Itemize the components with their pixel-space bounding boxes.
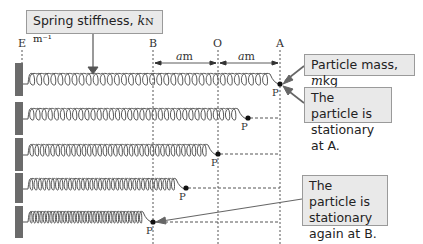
callout-stationary-b: The particle is stationary again at B.: [302, 175, 388, 226]
particle-label-5: P: [146, 225, 153, 236]
callout-text: Spring stiffness,: [33, 13, 137, 28]
label-e: E: [18, 37, 26, 50]
wall-block-2: [15, 102, 23, 135]
callout-line: The particle is: [311, 90, 385, 122]
particle-row-1: [277, 81, 282, 86]
springs-group: [23, 73, 280, 223]
callout-var: m: [311, 73, 323, 88]
arrow-particle-mass: [283, 66, 304, 84]
particle-row-4: [183, 185, 188, 190]
wall-block-1: [15, 63, 23, 96]
callout-spring-stiffness: Spring stiffness, kN m⁻¹: [26, 10, 163, 34]
callout-unit: kg: [323, 73, 338, 88]
spring-row-2: [23, 108, 248, 120]
particle-label-1: P: [272, 87, 279, 98]
wall-block-3: [15, 138, 23, 171]
callout-line: stationary at A.: [311, 122, 385, 154]
distance-unit: m: [183, 50, 193, 63]
distance-label-bo: am: [176, 50, 193, 63]
particle-label-3: P: [211, 157, 218, 168]
spring-row-4: [23, 178, 186, 190]
callout-var: k: [137, 13, 145, 28]
arrow-stationary-a: [283, 86, 304, 103]
label-a: A: [276, 37, 284, 50]
particle-label-2: P: [241, 121, 248, 132]
wall-block-4: [15, 173, 23, 203]
label-b: B: [149, 37, 157, 50]
distance-label-oa: am: [238, 50, 255, 63]
particle-row-5: [150, 219, 155, 224]
spring-row-3: [23, 144, 218, 156]
particle-row-2: [245, 115, 250, 120]
callout-line: stationary: [309, 210, 381, 226]
distance-unit: m: [245, 50, 255, 63]
particle-label-4: P: [179, 191, 186, 202]
callout-line: The particle is: [309, 178, 381, 210]
callout-line: again at B.: [309, 226, 381, 242]
wall-block-5: [15, 206, 23, 238]
callout-stationary-a: The particle is stationary at A.: [304, 87, 392, 123]
label-o: O: [213, 37, 222, 50]
arrow-spring-stiffness: [88, 34, 98, 74]
spring-row-5: [23, 211, 153, 223]
callout-text: Particle mass,: [311, 57, 398, 72]
spring-row-1: [23, 73, 280, 85]
callout-particle-mass: Particle mass, mkg: [304, 54, 415, 76]
particle-row-3: [215, 151, 220, 156]
